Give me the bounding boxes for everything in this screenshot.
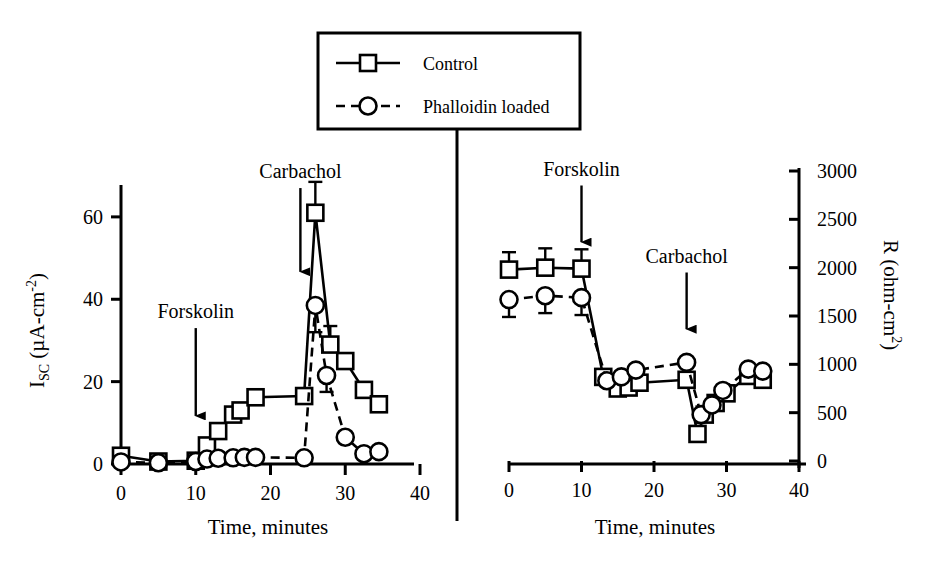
- right-marker-circle: [573, 289, 590, 306]
- left-series-control: [113, 182, 387, 470]
- left-x-tick-label: 40: [410, 482, 430, 504]
- right-annotations: ForskolinCarbachol: [543, 158, 728, 330]
- figure-canvas: Control Phalloidin loaded 0204060 010203…: [0, 0, 927, 572]
- left-marker-square: [371, 396, 387, 412]
- right-x-tick-label: 30: [717, 479, 737, 501]
- right-ylabel-sup: 2: [889, 336, 904, 343]
- left-x-tick-label: 10: [186, 482, 206, 504]
- left-y-tick-label: 40: [83, 288, 103, 310]
- left-y-axis-title: ISC (µA-cm-2): [24, 273, 52, 388]
- left-marker-square: [337, 353, 353, 369]
- right-x-ticks: 010203040: [504, 461, 809, 501]
- right-marker-square: [690, 426, 706, 442]
- right-series-control: [501, 248, 771, 442]
- figure-root: Control Phalloidin loaded 0204060 010203…: [0, 0, 927, 572]
- left-marker-circle: [337, 429, 354, 446]
- legend-label-phalloidin: Phalloidin loaded: [423, 97, 549, 117]
- left-annotation-label: Forskolin: [157, 300, 234, 322]
- left-ylabel-base: I: [25, 381, 49, 388]
- right-y-tick-label: 2500: [817, 208, 857, 230]
- legend: Control Phalloidin loaded: [318, 33, 580, 129]
- right-ylabel-close: ): [879, 343, 903, 350]
- right-marker-square: [537, 260, 553, 276]
- left-marker-circle: [296, 449, 313, 466]
- right-panel: 050010001500200025003000 010203040 R (oh…: [501, 158, 905, 540]
- left-series-phalloidin: [113, 297, 388, 471]
- left-marker-square: [248, 389, 264, 405]
- left-marker-square: [322, 337, 338, 353]
- left-marker-square: [307, 205, 323, 221]
- right-annotation-label: Carbachol: [646, 245, 729, 267]
- right-y-tick-label: 2000: [817, 257, 857, 279]
- left-ylabel-unit-close: ): [25, 273, 49, 280]
- svg-text:ISC (µA-cm-2): ISC (µA-cm-2): [24, 273, 52, 388]
- right-y-tick-label: 0: [817, 450, 827, 472]
- left-marker-square: [233, 402, 249, 418]
- right-y-tick-label: 3000: [817, 160, 857, 182]
- right-y-tick-label: 1500: [817, 305, 857, 327]
- right-marker-circle: [678, 354, 695, 371]
- left-marker-circle: [370, 443, 387, 460]
- left-x-tick-label: 0: [116, 482, 126, 504]
- right-marker-circle: [627, 362, 644, 379]
- left-marker-square: [356, 382, 372, 398]
- left-marker-square: [210, 423, 226, 439]
- right-marker-circle: [754, 363, 771, 380]
- right-x-tick-label: 10: [572, 479, 592, 501]
- legend-entry-phalloidin: Phalloidin loaded: [336, 97, 549, 117]
- legend-marker-square-icon: [360, 55, 376, 71]
- right-marker-circle: [501, 291, 518, 308]
- left-y-tick-label: 0: [93, 453, 103, 475]
- left-marker-circle: [307, 297, 324, 314]
- legend-label-control: Control: [423, 54, 478, 74]
- right-series-layer: [501, 248, 772, 442]
- left-ylabel-sub: SC: [37, 364, 52, 381]
- right-y-axis-title: R (ohm-cm2): [879, 240, 904, 350]
- left-y-tick-label: 60: [83, 206, 103, 228]
- right-annotation-label: Forskolin: [543, 158, 620, 180]
- right-x-tick-label: 20: [644, 479, 664, 501]
- right-marker-circle: [714, 382, 731, 399]
- left-marker-circle: [318, 367, 335, 384]
- left-x-tick-label: 20: [261, 482, 281, 504]
- left-marker-circle: [150, 454, 167, 471]
- right-marker-circle: [537, 287, 554, 304]
- right-x-tick-label: 40: [789, 479, 809, 501]
- left-marker-circle: [247, 449, 264, 466]
- right-marker-square: [574, 261, 590, 277]
- left-y-ticks: 0204060: [83, 206, 121, 475]
- legend-marker-circle-icon: [360, 98, 377, 115]
- right-y-tick-label: 1000: [817, 353, 857, 375]
- right-x-tick-label: 0: [504, 479, 514, 501]
- left-y-tick-label: 20: [83, 371, 103, 393]
- right-y-tick-label: 500: [817, 402, 847, 424]
- left-xlabel: Time, minutes: [208, 515, 329, 539]
- svg-text:R (ohm-cm2): R (ohm-cm2): [879, 240, 904, 350]
- right-ylabel-base: R (ohm-cm: [879, 240, 903, 336]
- right-series-phalloidin: [501, 287, 772, 423]
- left-x-tick-label: 30: [335, 482, 355, 504]
- right-xlabel: Time, minutes: [595, 515, 716, 539]
- right-marker-square: [501, 262, 517, 278]
- left-annotation-label: Carbachol: [259, 160, 342, 182]
- left-marker-circle: [113, 453, 130, 470]
- right-marker-circle: [704, 396, 721, 413]
- left-panel: 0204060 010203040 ISC (µA-cm-2) Time, mi…: [24, 160, 430, 539]
- left-ylabel-sup: -2: [24, 280, 39, 292]
- left-series-layer: [113, 182, 388, 471]
- left-ylabel-unit-open: (µA-cm: [25, 292, 49, 364]
